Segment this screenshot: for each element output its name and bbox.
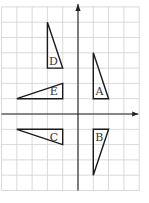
triangle-e: E [17,83,63,98]
coordinate-grid-diagram: ABCDE [0,0,149,203]
y-axis-arrow-icon [75,4,80,11]
triangle-label: D [49,55,58,68]
triangle-a: A [93,53,108,99]
x-axis-arrow-icon [132,111,138,116]
triangle-label: A [95,85,105,98]
triangle-b: B [93,129,108,175]
triangle-label: E [50,85,58,98]
triangle-label: C [50,131,58,144]
triangle-label: B [95,131,103,144]
triangle-c: C [17,129,63,144]
triangle-d: D [47,22,62,68]
